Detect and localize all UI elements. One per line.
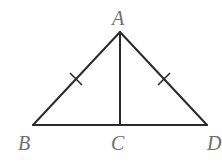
label-c: C: [111, 132, 125, 154]
label-b: B: [18, 132, 30, 154]
label-a: A: [110, 7, 125, 29]
label-d: D: [206, 132, 222, 154]
triangle-diagram: A B C D: [0, 0, 222, 162]
